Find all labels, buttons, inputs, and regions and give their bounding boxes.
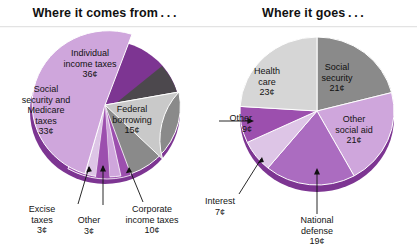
figure-root: Where it comes from . . . — [0, 0, 417, 250]
callout-interest: Interest 7¢ — [205, 196, 235, 217]
left-pie-chart — [12, 26, 202, 191]
callout-other-right: Other 9¢ — [208, 113, 252, 134]
right-slice-health-care[interactable] — [240, 37, 317, 111]
right-pie-chart — [227, 28, 417, 198]
callout-national-defense: Nationaldefense 19¢ — [300, 215, 333, 247]
callout-excise-taxes: Excisetaxes 3¢ — [29, 204, 56, 236]
right-pie-svg — [227, 28, 417, 198]
callout-other-left: Other 3¢ — [78, 215, 101, 236]
panel-where-it-comes-from: Where it comes from . . . — [0, 0, 209, 250]
panel-where-it-goes: Where it goes . . . — [209, 0, 417, 250]
left-chart-title: Where it comes from . . . — [0, 6, 209, 20]
callout-corporate-income-taxes: Corporateincome taxes 10¢ — [125, 204, 178, 236]
left-pie-svg — [12, 26, 202, 191]
right-chart-title: Where it goes . . . — [209, 6, 417, 20]
